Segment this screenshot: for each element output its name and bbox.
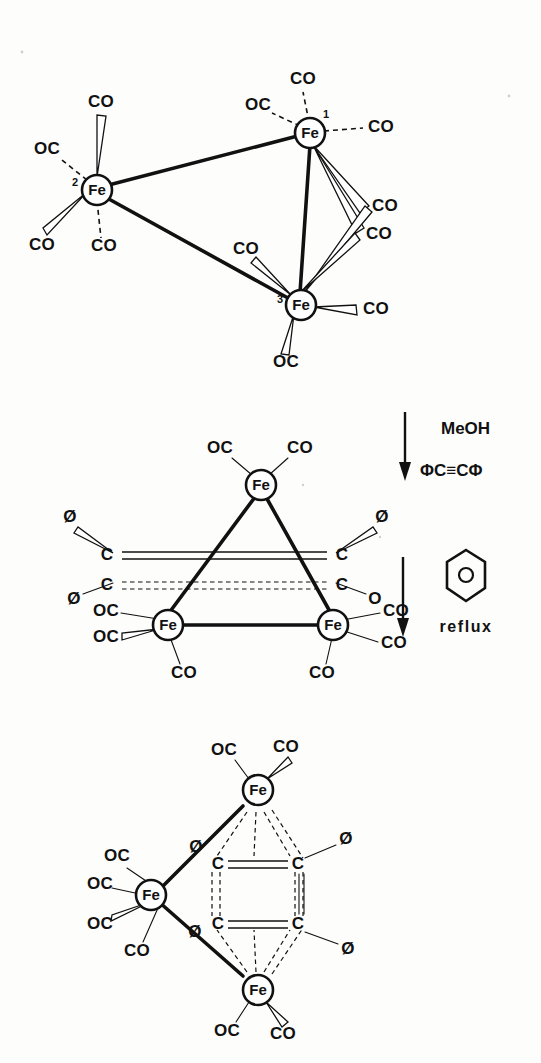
dashed-interactions-sides-bottom <box>212 872 303 916</box>
carbon-upper-right-bottom: C <box>292 854 304 873</box>
upper-carbon-carbon-double-bond-bottom <box>228 861 288 868</box>
fe-left-oc-upper-middle: OC <box>93 601 119 620</box>
fe1-co-right-label: CO <box>368 117 394 136</box>
fe3-label: Fe <box>292 296 310 313</box>
reaction-scheme-svg: Fe 1 Fe 2 Fe 3 CO OC CO CO OC CO CO CO C… <box>0 0 541 1063</box>
fe-right-co-upper-middle: CO <box>383 601 409 620</box>
fe-left-oc-lower-bottom: OC <box>87 914 113 933</box>
carbon-lower-right-middle: C <box>336 575 348 594</box>
fe3-index: 3 <box>277 293 283 305</box>
fe-top-co-middle: CO <box>287 438 313 457</box>
structure-top: Fe 1 Fe 2 Fe 3 CO OC CO CO OC CO CO CO C… <box>29 69 398 371</box>
fe1-co-top-label: CO <box>290 69 316 88</box>
carbon-upper-left-bottom: C <box>212 854 224 873</box>
carbon-upper-left-middle: C <box>101 545 113 564</box>
carbon-upper-right-middle: C <box>336 545 348 564</box>
fe-top-oc-bottom: OC <box>211 740 237 759</box>
fe-left-label-middle: Fe <box>159 616 177 633</box>
fe-right-label-middle: Fe <box>324 616 342 633</box>
fe2-label: Fe <box>88 181 106 198</box>
fe1-node: Fe 1 <box>295 108 329 148</box>
fe3-bridging-wedges <box>300 206 372 294</box>
reagent-alkyne-label: ΦC≡CΦ <box>420 461 482 480</box>
bridging-co-upper-label: CO <box>372 196 398 215</box>
oxygen-lower-right-middle: O <box>368 589 381 608</box>
carbon-lower-left-middle: C <box>101 575 113 594</box>
fe-left-oc-lower-middle: OC <box>93 627 119 646</box>
fe-top-label-middle: Fe <box>252 476 270 493</box>
carbon-lower-left-bottom: C <box>212 914 224 933</box>
fe-top-label-bottom: Fe <box>249 781 267 798</box>
carbon-lower-right-bottom: C <box>292 914 304 933</box>
structure-middle: Fe Fe Fe C C C C Ø Ø Ø O OC CO OC OC CO … <box>63 438 409 682</box>
fe-left-label-bottom: Fe <box>142 886 160 903</box>
fe-top-co-bottom: CO <box>273 737 299 756</box>
fe2-oc-upperleft-label: OC <box>34 139 60 158</box>
fe1-oc-upperleft-label: OC <box>245 95 271 114</box>
reagent-meoh-label: MeOH <box>441 419 490 438</box>
fe-fe-bonds-middle <box>166 497 333 625</box>
fe-bottom-label-bottom: Fe <box>249 981 267 998</box>
fe-right-node-middle: Fe <box>318 610 348 640</box>
reaction-arrow-2: reflux <box>397 550 493 637</box>
fe-top-oc-middle: OC <box>207 438 233 457</box>
benzene-ring-icon <box>447 550 485 601</box>
reflux-label: reflux <box>439 618 492 635</box>
fe-left-node-bottom: Fe <box>136 880 166 910</box>
fe2-index: 2 <box>72 176 78 188</box>
fe3-oc-bottom-label: OC <box>273 352 299 371</box>
reaction-arrow-1: MeOH ΦC≡CΦ <box>399 412 490 481</box>
fe-right-co-bottom-middle: CO <box>309 663 335 682</box>
fe3-co-upperleft-label: CO <box>233 239 259 258</box>
phenyl-lower-left-middle: Ø <box>67 589 80 608</box>
fe2-co-lowerleft-label: CO <box>29 235 55 254</box>
phenyl-upper-right-bottom: Ø <box>339 829 352 848</box>
dashed-interactions-bottom-bottom <box>217 928 303 974</box>
lower-carbon-carbon-double-bond-bottom <box>228 921 288 928</box>
fe-top-node-bottom: Fe <box>243 775 273 805</box>
fe3-co-right-label: CO <box>363 299 389 318</box>
phenyl-lower-right-bottom: Ø <box>341 939 354 958</box>
fe1-index: 1 <box>323 108 329 120</box>
fe3-node: Fe 3 <box>277 290 316 320</box>
fe-left-oc-top-bottom: OC <box>104 846 130 865</box>
structure-bottom: Fe Fe Fe C C C C Ø Ø Ø Ø OC CO OC OC OC … <box>87 737 355 1043</box>
lower-carbon-carbon-double-bond <box>122 582 327 589</box>
figure-canvas: Fe 1 Fe 2 Fe 3 CO OC CO CO OC CO CO CO C… <box>0 0 541 1063</box>
fe-left-co-bottom-bottom: CO <box>124 941 150 960</box>
fe-bottom-node-bottom: Fe <box>243 975 273 1005</box>
fe-bottom-oc-bottom: OC <box>214 1021 240 1040</box>
phenyl-connectors-bottom <box>305 845 338 944</box>
phenyl-upper-right-middle: Ø <box>375 507 388 526</box>
phenyl-upper-edge-bottom: Ø <box>189 837 202 856</box>
fe-fe-bonds-bottom <box>159 806 243 976</box>
fe-fe-bonds-top <box>101 133 310 303</box>
fe2-co-bottom-label: CO <box>91 236 117 255</box>
fe-top-node-middle: Fe <box>246 470 276 500</box>
fe-bottom-co-bottom: CO <box>270 1024 296 1043</box>
fe-left-co-bottom-middle: CO <box>171 663 197 682</box>
fe-left-node-middle: Fe <box>153 610 183 640</box>
fe2-co-top-label: CO <box>88 92 114 111</box>
phenyl-upper-left-middle: Ø <box>63 507 76 526</box>
fe1-label: Fe <box>301 124 319 141</box>
bridging-co-lower-label: CO <box>366 224 392 243</box>
fe-left-oc-upper-bottom: OC <box>87 874 113 893</box>
phenyl-lower-edge-bottom: Ø <box>188 922 201 941</box>
